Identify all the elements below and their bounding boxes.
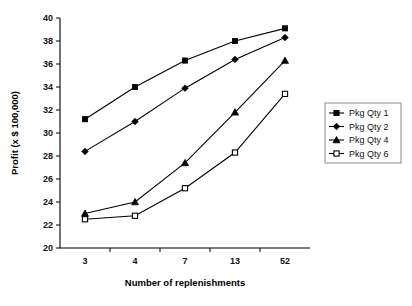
- y-tick-label: 22: [43, 220, 53, 230]
- legend-label: Pkg Qty 6: [349, 149, 389, 159]
- data-point: [282, 26, 287, 31]
- x-tick-label: 13: [230, 256, 240, 266]
- legend-label: Pkg Qty 4: [349, 135, 389, 145]
- series-line: [85, 28, 285, 119]
- data-point: [82, 117, 87, 122]
- data-point: [232, 150, 237, 155]
- legend: Pkg Qty 1Pkg Qty 2Pkg Qty 4Pkg Qty 6: [325, 103, 401, 163]
- data-point: [182, 85, 189, 92]
- legend-label: Pkg Qty 2: [349, 122, 389, 132]
- y-tick-label: 20: [43, 243, 53, 253]
- y-tick-label: 34: [43, 82, 53, 92]
- profit-vs-replenishments-chart: 20222426283032343638403471352Number of r…: [0, 0, 412, 306]
- series-pkg-qty-1: [82, 26, 287, 122]
- y-axis-title: Profit (x $ 100,000): [9, 91, 20, 175]
- series-pkg-qty-2: [82, 34, 289, 154]
- data-point: [182, 186, 187, 191]
- x-tick-label: 7: [182, 256, 187, 266]
- data-point: [82, 148, 89, 155]
- data-point: [282, 34, 289, 41]
- data-point: [132, 118, 139, 125]
- data-point: [82, 217, 87, 222]
- series-line: [85, 94, 285, 219]
- y-tick-label: 40: [43, 13, 53, 23]
- data-point: [182, 58, 187, 63]
- x-tick-label: 4: [132, 256, 137, 266]
- data-point: [132, 84, 137, 89]
- y-tick-label: 32: [43, 105, 53, 115]
- y-tick-label: 38: [43, 36, 53, 46]
- data-point: [282, 91, 287, 96]
- legend-marker: [334, 151, 339, 156]
- axis-lines: [60, 18, 310, 248]
- series-pkg-qty-4: [81, 57, 288, 216]
- x-tick-label: 52: [280, 256, 290, 266]
- y-tick-label: 24: [43, 197, 53, 207]
- series-pkg-qty-6: [82, 91, 287, 222]
- x-axis-title: Number of replenishments: [125, 277, 245, 288]
- legend-marker: [334, 110, 339, 115]
- data-point: [232, 38, 237, 43]
- y-tick-label: 28: [43, 151, 53, 161]
- series-line: [85, 38, 285, 152]
- data-point: [281, 57, 288, 63]
- y-tick-label: 26: [43, 174, 53, 184]
- y-tick-label: 36: [43, 59, 53, 69]
- legend-label: Pkg Qty 1: [349, 108, 389, 118]
- x-tick-label: 3: [82, 256, 87, 266]
- data-point: [132, 213, 137, 218]
- data-point: [232, 56, 239, 63]
- y-tick-label: 30: [43, 128, 53, 138]
- chart-canvas: 20222426283032343638403471352Number of r…: [0, 0, 412, 306]
